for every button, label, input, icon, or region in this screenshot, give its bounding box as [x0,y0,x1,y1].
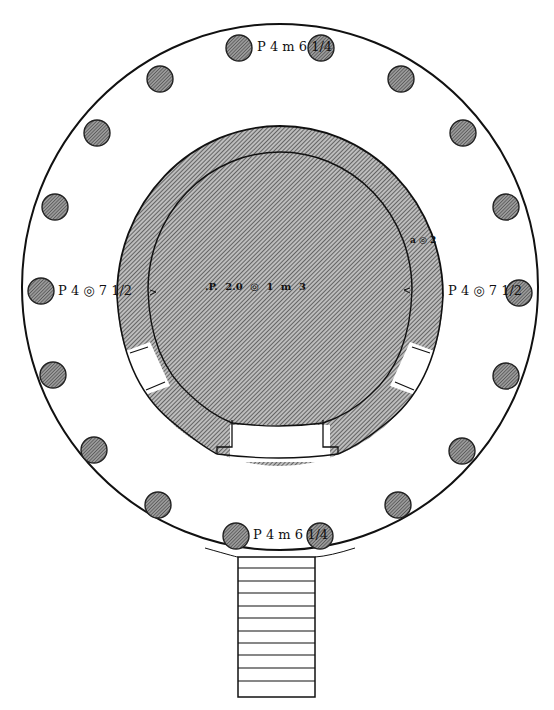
column [450,120,476,146]
column [145,492,171,518]
column [147,66,173,92]
column [223,523,249,549]
right-dimension-label: P 4 ◎ 7 1/2 [448,284,522,297]
column [84,120,110,146]
left-dimension-label: P 4 ◎ 7 1/2 [58,284,132,297]
temple-plan-drawing [0,0,554,710]
column [40,362,66,388]
center-diameter-label: .P. 2.0 ◎ 1 m 3 [205,282,306,292]
column [81,437,107,463]
column [388,66,414,92]
column [385,492,411,518]
bottom-dimension-label: P 4 m 6 1/4 [253,528,328,541]
entrance-stair [205,548,355,697]
column [449,438,475,464]
column [493,363,519,389]
column [226,35,252,61]
top-dimension-label: P 4 m 6 1/4 [257,40,332,53]
column [42,194,68,220]
column [493,194,519,220]
column [28,278,54,304]
wall-thickness-label: a ◎ 2 [410,236,436,245]
